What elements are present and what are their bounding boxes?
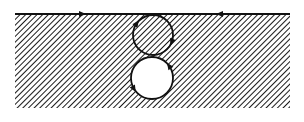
lower-circle-hole <box>131 57 173 99</box>
diagram-figure <box>0 0 304 122</box>
upper-circle <box>133 15 173 55</box>
